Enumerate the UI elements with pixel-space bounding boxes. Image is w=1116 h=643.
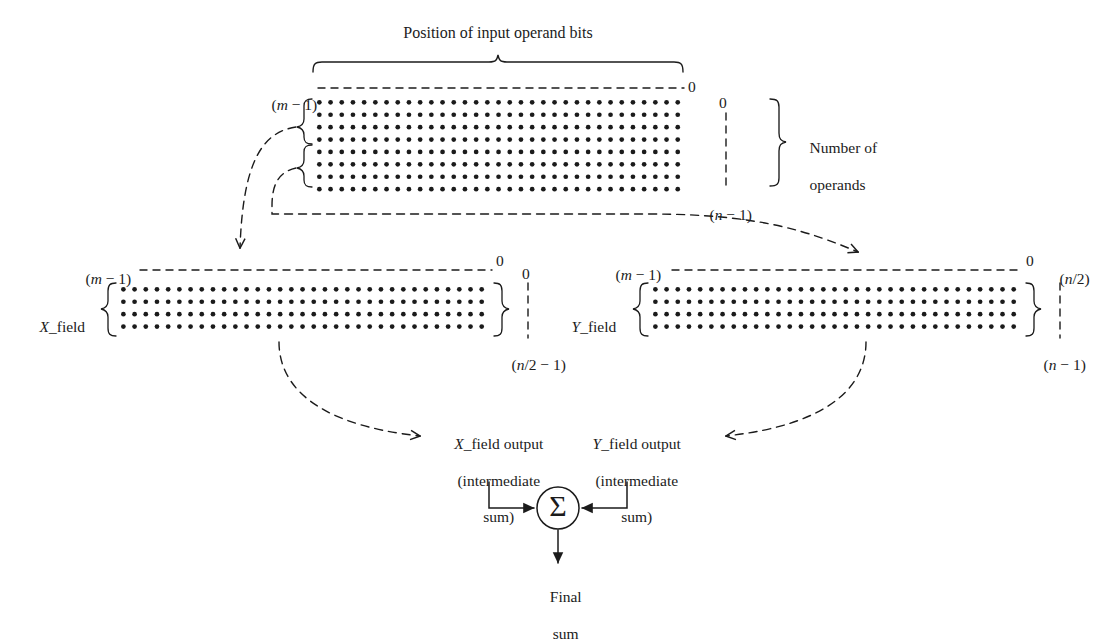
- y-field-right-brace: [1026, 283, 1041, 336]
- number-of-operands-label: Number of operands: [794, 121, 914, 212]
- x-field-lsb-label: 0: [496, 252, 504, 270]
- x-field-first-row-label: 0: [522, 265, 530, 283]
- main-array-lsb-label: 0: [688, 78, 696, 96]
- y-field-last-row-label: (n − 1): [1028, 338, 1086, 393]
- y-field-output-label: Y_field output (intermediate sum): [558, 417, 700, 545]
- x-output-line3: sum): [483, 508, 514, 525]
- number-of-operands-line2: operands: [810, 176, 866, 193]
- flow-xfield-to-xoutput: [279, 342, 420, 436]
- final-sum-line1: Final: [550, 588, 582, 605]
- final-sum-line2: sum: [553, 625, 579, 642]
- x-output-line2: (intermediate: [457, 472, 540, 489]
- position-of-bits-brace: [313, 55, 683, 72]
- y-output-line3: sum): [621, 508, 652, 525]
- main-array-first-row-label: 0: [719, 94, 727, 112]
- x-field-msb-label: (m − 1): [70, 252, 131, 307]
- final-sum-label: Final sum: [508, 570, 608, 643]
- y-output-line2: (intermediate: [595, 472, 678, 489]
- x-output-line1: X_field output: [454, 435, 543, 452]
- x-field-right-brace: [494, 283, 509, 336]
- main-array-msb-label: (m − 1): [256, 78, 317, 133]
- sigma-icon: Σ: [538, 489, 578, 523]
- flow-upper-half-to-xfield: [240, 127, 296, 248]
- x-field-name-label: X_field: [24, 300, 85, 355]
- number-of-operands-line1: Number of: [810, 139, 878, 156]
- y-field-name-label: Y_field: [556, 300, 616, 355]
- x-field-output-label: X_field output (intermediate sum): [420, 417, 562, 545]
- y-field-msb-label: (m − 1): [600, 248, 661, 303]
- main-array-last-row-label: (n − 1): [694, 188, 752, 243]
- flow-lower-half-to-yfield: [272, 168, 858, 252]
- y-field-first-row-label: (n/2): [1044, 252, 1090, 307]
- y-output-line1: Y_field output: [593, 435, 681, 452]
- number-of-operands-brace: [770, 99, 786, 186]
- diagram-title: Position of input operand bits: [348, 24, 648, 43]
- flow-yfield-to-youtput: [726, 342, 866, 436]
- main-array-lower-half-brace: [297, 145, 312, 187]
- y-field-lsb-label: 0: [1026, 252, 1034, 270]
